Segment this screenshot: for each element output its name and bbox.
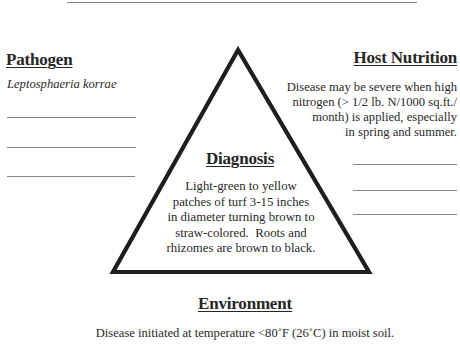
diagnosis-line: rhizomes are brown to black. bbox=[160, 241, 322, 257]
environment-heading: Environment bbox=[198, 294, 292, 313]
diagnosis-line: straw-colored. Roots and bbox=[170, 226, 312, 242]
environment-heading-wrap: Environment bbox=[0, 294, 460, 314]
host-nutrition-blank-line-3 bbox=[353, 214, 457, 215]
host-nutrition-heading: Host Nutrition bbox=[354, 48, 457, 68]
pathogen-heading: Pathogen bbox=[6, 50, 72, 70]
host-nutrition-description: Disease may be severe when high nitrogen… bbox=[247, 80, 457, 140]
host-nutrition-line: month) is applied, especially bbox=[247, 110, 457, 125]
diagnosis-line: in diameter turning brown to bbox=[160, 210, 322, 226]
pathogen-blank-line-1 bbox=[7, 117, 136, 118]
diagnosis-description: Light-green to yellow patches of turf 3-… bbox=[170, 179, 312, 257]
environment-description: Disease initiated at temperature <80˚F (… bbox=[0, 326, 460, 341]
diagnosis-heading-wrap: Diagnosis bbox=[0, 149, 460, 169]
diagnosis-line: patches of turf 3-15 inches bbox=[160, 195, 322, 211]
host-nutrition-line: nitrogen (> 1/2 lb. N/1000 sq.ft./ bbox=[247, 95, 457, 110]
diagnosis-line: Light-green to yellow bbox=[170, 179, 312, 195]
host-nutrition-blank-line-2 bbox=[353, 190, 457, 191]
pathogen-blank-line-2 bbox=[7, 147, 136, 148]
host-nutrition-line: Disease may be severe when high bbox=[247, 80, 457, 95]
host-nutrition-line: in spring and summer. bbox=[247, 125, 457, 140]
pathogen-organism-name: Leptosphaeria korrae bbox=[7, 77, 117, 92]
diagnosis-heading: Diagnosis bbox=[206, 149, 274, 168]
pathogen-blank-line-3 bbox=[7, 176, 135, 177]
